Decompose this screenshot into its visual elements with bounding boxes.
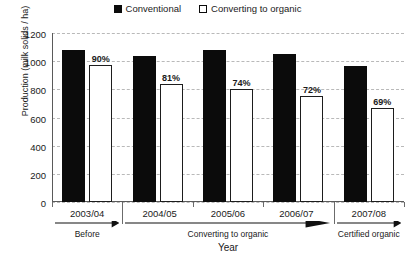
bar-converting-to-organic — [160, 84, 183, 202]
bar-value-label: 72% — [303, 85, 321, 95]
phase-year-labels: 2003/04 — [55, 208, 119, 221]
plot-area: 020040060080010001200 90%81%74%72%69% — [52, 33, 404, 202]
bar-column: 72% — [300, 33, 323, 202]
phase-label: Converting to organic — [125, 229, 330, 239]
x-axis-tick — [404, 202, 405, 207]
y-tick-label: 0 — [41, 198, 46, 209]
phase-separator — [122, 202, 123, 224]
x-axis-tick — [52, 202, 53, 207]
phase-group: 2004/052005/062006/07Converting to organ… — [125, 208, 330, 239]
legend-label-conventional: Conventional — [126, 3, 181, 14]
bar-conventional — [203, 50, 226, 202]
phase-label: Before — [55, 229, 119, 239]
bar-converting-to-organic — [89, 65, 112, 202]
x-axis-tick — [193, 202, 194, 207]
legend-entry-converting-to-organic: Converting to organic — [199, 3, 301, 14]
bar-group: 81% — [122, 33, 192, 202]
y-tick-label: 400 — [30, 141, 46, 152]
bar-conventional — [273, 54, 296, 202]
bar-column — [62, 33, 85, 202]
y-tick-label: 1200 — [25, 29, 46, 40]
phase-year-labels: 2007/08 — [337, 208, 401, 221]
bar-column — [344, 33, 367, 202]
bar-group: 72% — [263, 33, 333, 202]
phase-arrow — [337, 221, 401, 229]
x-tick-label: 2006/07 — [279, 208, 313, 219]
production-bar-chart: Conventional Converting to organic Produ… — [0, 0, 415, 256]
bar-converting-to-organic — [371, 108, 394, 202]
bar-value-label: 90% — [92, 54, 110, 64]
hollow-square-icon — [199, 5, 207, 13]
y-tick-label: 200 — [30, 169, 46, 180]
bar-converting-to-organic — [300, 96, 323, 202]
bar-value-label: 74% — [233, 78, 251, 88]
bar-group: 69% — [334, 33, 404, 202]
bar-group: 74% — [193, 33, 263, 202]
x-tick-label: 2003/04 — [70, 208, 104, 219]
x-tick-label: 2005/06 — [211, 208, 245, 219]
y-tick-label: 1000 — [25, 57, 46, 68]
y-tick-label: 600 — [30, 113, 46, 124]
bar-group: 90% — [52, 33, 122, 202]
bar-value-label: 69% — [373, 97, 391, 107]
bar-column — [203, 33, 226, 202]
bar-converting-to-organic — [230, 89, 253, 202]
bar-column: 69% — [371, 33, 394, 202]
x-axis-tick — [263, 202, 264, 207]
y-axis-title: Production (milk solids / ha) — [20, 0, 30, 136]
x-axis-zone: 2003/04Before2004/052005/062006/07Conver… — [52, 202, 404, 256]
bar-conventional — [133, 56, 156, 202]
x-tick-label: 2007/08 — [352, 208, 386, 219]
phase-arrow — [125, 221, 330, 229]
bar-column: 90% — [89, 33, 112, 202]
bar-column — [273, 33, 296, 202]
chart-legend: Conventional Converting to organic — [0, 3, 415, 14]
phase-separator — [334, 202, 335, 224]
bar-groups: 90%81%74%72%69% — [52, 33, 404, 202]
bar-conventional — [62, 50, 85, 202]
bar-column: 81% — [160, 33, 183, 202]
phase-year-labels: 2004/052005/062006/07 — [125, 208, 330, 221]
filled-square-icon — [114, 5, 122, 13]
bar-column: 74% — [230, 33, 253, 202]
y-tick-label: 800 — [30, 85, 46, 96]
phase-group: 2003/04Before — [55, 208, 119, 239]
phase-label: Certified organic — [337, 229, 401, 239]
bar-conventional — [344, 66, 367, 202]
phase-group: 2007/08Certified organic — [337, 208, 401, 239]
x-tick-label: 2004/05 — [142, 208, 176, 219]
legend-label-converting-to-organic: Converting to organic — [211, 3, 301, 14]
x-axis-title: Year — [52, 242, 404, 253]
legend-entry-conventional: Conventional — [114, 3, 181, 14]
bar-value-label: 81% — [162, 73, 180, 83]
bar-column — [133, 33, 156, 202]
phase-arrow — [55, 221, 119, 229]
